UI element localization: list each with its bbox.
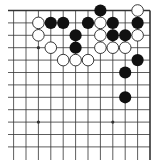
black-stone bbox=[82, 17, 94, 29]
black-stone bbox=[70, 29, 82, 41]
black-stone bbox=[107, 17, 119, 29]
white-stone bbox=[107, 42, 119, 54]
white-stone bbox=[33, 17, 45, 29]
black-stone bbox=[132, 54, 144, 66]
star-point bbox=[37, 121, 40, 124]
black-stone bbox=[107, 29, 119, 41]
black-stones bbox=[45, 4, 144, 103]
white-stone bbox=[33, 30, 45, 42]
white-stone bbox=[132, 30, 144, 42]
white-stone bbox=[95, 42, 107, 54]
black-stone bbox=[70, 42, 82, 54]
white-stone bbox=[70, 54, 82, 66]
white-stone bbox=[82, 54, 94, 66]
black-stone bbox=[57, 17, 69, 29]
go-board bbox=[0, 0, 158, 163]
star-point bbox=[111, 121, 114, 124]
black-stone bbox=[94, 4, 106, 16]
star-point bbox=[37, 46, 40, 49]
white-stone bbox=[57, 54, 69, 66]
white-stone bbox=[95, 17, 107, 29]
black-stone bbox=[45, 17, 57, 29]
black-stone bbox=[119, 66, 131, 78]
black-stone bbox=[119, 29, 131, 41]
white-stone bbox=[95, 30, 107, 42]
white-stone bbox=[119, 42, 131, 54]
white-stone bbox=[132, 5, 144, 17]
black-stone bbox=[132, 17, 144, 29]
white-stone bbox=[45, 42, 57, 54]
black-stone bbox=[119, 91, 131, 103]
